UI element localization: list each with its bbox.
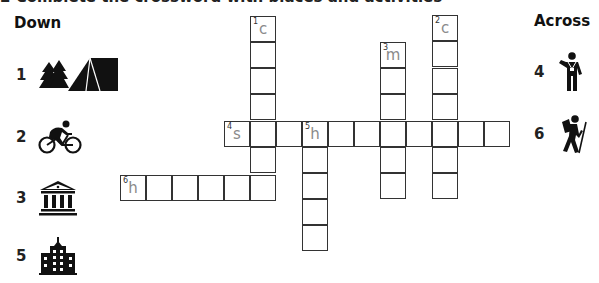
cell-5down-2[interactable]	[302, 147, 328, 173]
cell-1down-3[interactable]	[250, 68, 276, 94]
cell-5down-4[interactable]	[302, 199, 328, 225]
cell-4across-1[interactable]: 4 s	[224, 121, 250, 147]
cell-4across-10[interactable]	[458, 121, 484, 147]
cell-4across-6[interactable]	[354, 121, 380, 147]
hint-letter: s	[225, 125, 249, 143]
cell-4across-4[interactable]: 5 h	[302, 121, 328, 147]
hint-letter: h	[303, 125, 327, 143]
cell-4across-9[interactable]	[432, 121, 458, 147]
cell-4across-7[interactable]	[380, 121, 406, 147]
cell-3down-2[interactable]	[380, 68, 406, 94]
cell-5down-5[interactable]	[302, 225, 328, 251]
hint-letter: h	[121, 179, 145, 197]
cell-6across-5[interactable]	[224, 175, 250, 201]
cell-2down-3[interactable]	[432, 68, 458, 94]
hint-letter: c	[251, 20, 275, 38]
cell-6across-1[interactable]: 6 h	[120, 175, 146, 201]
hint-letter: m	[381, 46, 405, 64]
cell-1down-6[interactable]	[250, 147, 276, 173]
cell-3down-5[interactable]	[380, 147, 406, 173]
cell-4across-3[interactable]	[276, 121, 302, 147]
cell-3down-1[interactable]: 3 m	[380, 42, 406, 68]
cell-6across-6[interactable]	[250, 175, 276, 201]
crossword-grid: 1 c 2 c 3 m 4 s 5 h 6 h	[0, 0, 599, 283]
cell-4across-2[interactable]	[250, 121, 276, 147]
cell-4across-5[interactable]	[328, 121, 354, 147]
cell-2down-2[interactable]	[432, 41, 458, 67]
cell-4across-8[interactable]	[406, 121, 432, 147]
cell-1down-2[interactable]	[250, 42, 276, 68]
cell-6across-3[interactable]	[172, 175, 198, 201]
hint-letter: c	[433, 19, 457, 37]
cell-3down-6[interactable]	[380, 173, 406, 199]
cell-2down-4[interactable]	[432, 94, 458, 120]
cell-4across-11[interactable]	[484, 121, 510, 147]
cell-1down-4[interactable]	[250, 94, 276, 120]
cell-6across-4[interactable]	[198, 175, 224, 201]
cell-3down-3[interactable]	[380, 94, 406, 120]
cell-2down-1[interactable]: 2 c	[432, 15, 458, 41]
cell-2down-7[interactable]	[432, 173, 458, 199]
cell-5down-3[interactable]	[302, 173, 328, 199]
cell-2down-6[interactable]	[432, 147, 458, 173]
cell-6across-2[interactable]	[146, 175, 172, 201]
cell-1down-1[interactable]: 1 c	[250, 16, 276, 42]
